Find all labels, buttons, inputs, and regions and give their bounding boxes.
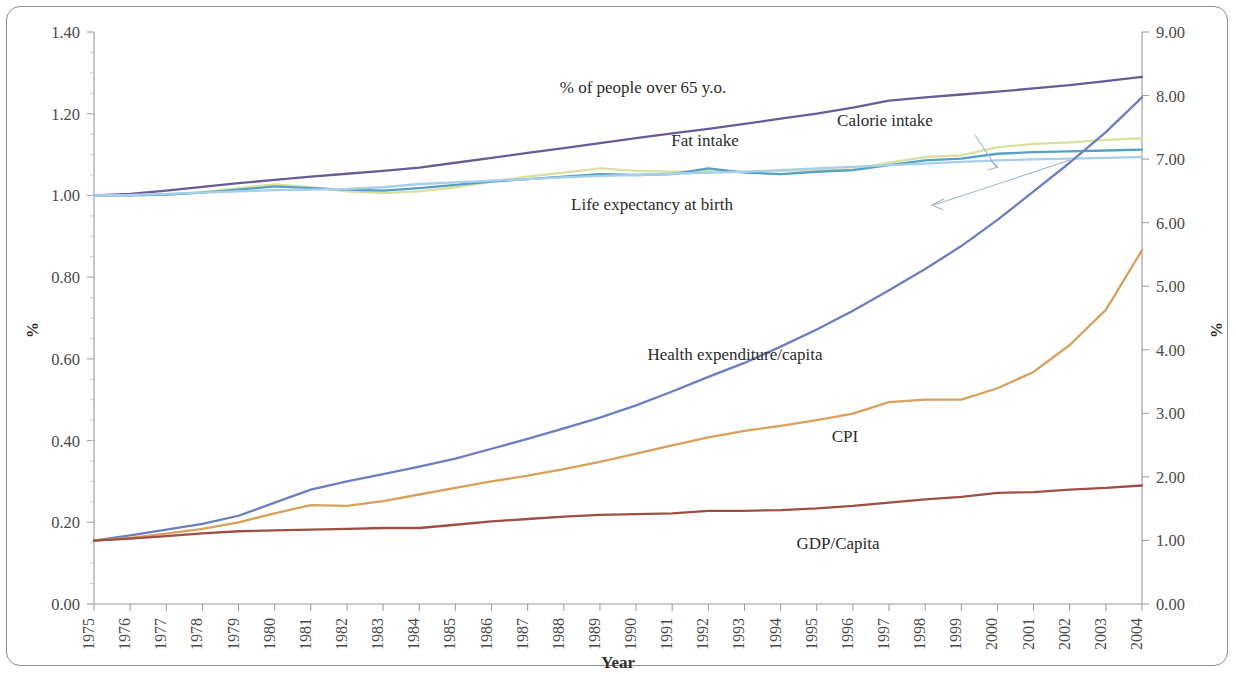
- series-line-cpi: [94, 250, 1142, 540]
- x-tick-label: 1982: [333, 618, 350, 650]
- x-tick-label: 1991: [658, 618, 675, 650]
- x-tick-label: 1984: [405, 618, 422, 650]
- chart-figure: 0.000.200.400.600.801.001.201.40 0.001.0…: [0, 0, 1236, 674]
- x-tick-label: 1992: [694, 618, 711, 650]
- y-tick-label-right: 4.00: [1156, 341, 1185, 360]
- series-annotations: % of people over 65 y.o.Calorie intakeFa…: [560, 78, 933, 553]
- x-tick-label: 1980: [261, 618, 278, 650]
- series-line-health-expenditure-capita: [94, 97, 1142, 540]
- y-tick-label-left: 0.00: [51, 595, 80, 614]
- x-tick-label: 2003: [1092, 618, 1109, 650]
- y-tick-label-left: 0.80: [51, 268, 80, 287]
- y-tick-label-left: 1.40: [51, 23, 80, 42]
- y-tick-label-right: 7.00: [1156, 150, 1185, 169]
- right-axis-ticks: 0.001.002.003.004.005.006.007.008.009.00: [1142, 23, 1185, 614]
- x-tick-label: 2001: [1020, 618, 1037, 650]
- left-axis-ticks: 0.000.200.400.600.801.001.201.40: [51, 23, 94, 614]
- x-tick-label: 1975: [80, 618, 97, 650]
- x-tick-label: 1987: [514, 618, 531, 650]
- x-tick-label: 1976: [116, 618, 133, 650]
- x-tick-label: 1999: [947, 618, 964, 650]
- x-tick-label: 1989: [586, 618, 603, 650]
- y-axis-title-left: %: [24, 322, 41, 338]
- series-line-gdp-capita: [94, 486, 1142, 541]
- x-tick-label: 1979: [225, 618, 242, 650]
- x-tick-label: 1977: [152, 618, 169, 650]
- series-label-life-expectancy-at-birth: Life expectancy at birth: [571, 195, 733, 214]
- x-axis-title: Year: [601, 653, 635, 672]
- x-tick-label: 1981: [297, 618, 314, 650]
- life-expectancy-arrowhead: [932, 199, 944, 210]
- series-label-fat-intake: Fat intake: [671, 131, 739, 150]
- x-tick-label: 1983: [369, 618, 386, 650]
- life-expectancy-arrow: [934, 160, 1070, 205]
- y-tick-label-right: 9.00: [1156, 23, 1185, 42]
- y-tick-label-right: 8.00: [1156, 87, 1185, 106]
- x-axis-ticks: 1975197619771978197919801981198219831984…: [80, 604, 1145, 650]
- x-tick-label: 2004: [1128, 618, 1145, 650]
- x-tick-label: 1994: [767, 618, 784, 650]
- x-tick-label: 1990: [622, 618, 639, 650]
- y-tick-label-right: 3.00: [1156, 404, 1185, 423]
- y-tick-label-right: 5.00: [1156, 277, 1185, 296]
- x-tick-label: 2002: [1056, 618, 1073, 650]
- series-label-of-people-over-65-y-o: % of people over 65 y.o.: [560, 78, 727, 97]
- line-chart-canvas: 0.000.200.400.600.801.001.201.40 0.001.0…: [0, 0, 1236, 674]
- y-axis-title-right: %: [1208, 322, 1225, 338]
- x-tick-label: 1998: [911, 618, 928, 650]
- x-tick-label: 1985: [441, 618, 458, 650]
- series-line-calorie-intake: [94, 138, 1142, 195]
- x-tick-label: 2000: [983, 618, 1000, 650]
- x-tick-label: 1986: [478, 618, 495, 650]
- series-label-health-expenditure-capita: Health expenditure/capita: [647, 345, 823, 364]
- x-tick-label: 1993: [730, 618, 747, 650]
- y-tick-label-right: 0.00: [1156, 595, 1185, 614]
- x-tick-label: 1988: [550, 618, 567, 650]
- y-tick-label-left: 1.20: [51, 105, 80, 124]
- series-label-gdp-capita: GDP/Capita: [796, 534, 880, 553]
- y-tick-label-right: 2.00: [1156, 468, 1185, 487]
- x-tick-label: 1995: [803, 618, 820, 650]
- y-tick-label-left: 0.60: [51, 350, 80, 369]
- y-tick-label-left: 0.20: [51, 513, 80, 532]
- series-lines: [94, 77, 1142, 541]
- x-tick-label: 1996: [839, 618, 856, 650]
- y-tick-label-right: 1.00: [1156, 531, 1185, 550]
- x-tick-label: 1997: [875, 618, 892, 650]
- x-tick-label: 1978: [188, 618, 205, 650]
- series-label-calorie-intake: Calorie intake: [837, 111, 933, 130]
- series-label-cpi: CPI: [832, 427, 859, 446]
- y-tick-label-left: 1.00: [51, 186, 80, 205]
- y-tick-label-left: 0.40: [51, 432, 80, 451]
- y-tick-label-right: 6.00: [1156, 214, 1185, 233]
